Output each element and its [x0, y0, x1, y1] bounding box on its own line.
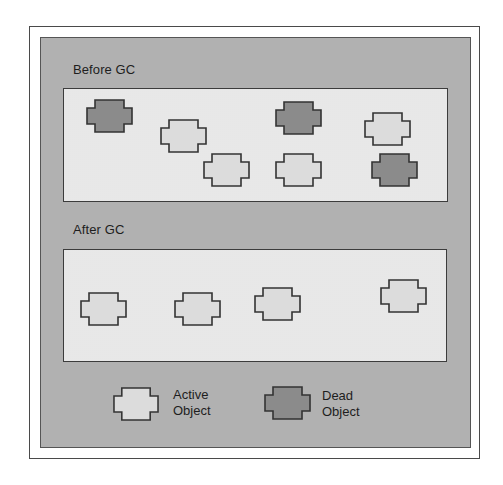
active-object-before-2	[160, 119, 207, 153]
active-object-after-4	[380, 279, 427, 313]
after-gc-label: After GC	[73, 222, 124, 237]
active-object-after-1	[80, 292, 127, 326]
active-object-before-5	[275, 153, 322, 187]
legend-dead-object-icon	[264, 386, 311, 420]
dead-object-before-7	[371, 153, 418, 187]
legend-active-line1: Active	[173, 387, 211, 403]
legend-dead-label: Dead Object	[322, 388, 360, 420]
legend-dead-line1: Dead	[322, 388, 360, 404]
dead-object-before-4	[275, 101, 322, 135]
legend-active-label: Active Object	[173, 387, 211, 419]
dead-object-before-1	[86, 99, 133, 133]
active-object-after-3	[254, 287, 301, 321]
legend-active-object-icon	[113, 387, 159, 421]
active-object-before-6	[364, 112, 411, 146]
active-object-after-2	[174, 292, 221, 326]
legend-active-line2: Object	[173, 403, 211, 419]
before-gc-label: Before GC	[73, 62, 135, 77]
active-object-before-3	[203, 153, 250, 187]
legend-dead-line2: Object	[322, 404, 360, 420]
